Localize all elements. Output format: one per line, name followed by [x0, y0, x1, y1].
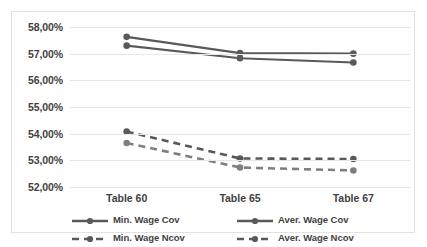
legend-label: Aver. Wage Cov — [278, 214, 348, 225]
y-axis-tick-label: 55,00% — [28, 101, 63, 113]
legend-swatch-icon — [72, 231, 108, 243]
data-point-marker — [123, 42, 130, 49]
legend-swatch-icon — [237, 213, 273, 225]
y-axis-tick-label: 58,00% — [28, 21, 63, 33]
gridline — [70, 107, 410, 108]
data-point-marker — [237, 55, 244, 62]
chart-frame: 52,00%53,00%54,00%55,00%56,00%57,00%58,0… — [11, 11, 415, 233]
gridline — [70, 80, 410, 81]
y-axis-tick-label: 52,00% — [28, 181, 63, 193]
legend-swatch-icon — [237, 231, 273, 243]
plot-area: 52,00%53,00%54,00%55,00%56,00%57,00%58,0… — [70, 27, 410, 187]
y-axis-tick-label: 56,00% — [28, 74, 63, 86]
x-axis-tick-label: Table 67 — [333, 192, 374, 204]
data-point-marker — [237, 164, 244, 171]
x-axis-tick-label: Table 60 — [106, 192, 147, 204]
legend-entry[interactable]: Min. Wage Cov — [72, 212, 237, 226]
y-axis-tick-label: 53,00% — [28, 154, 63, 166]
series-line — [127, 132, 354, 159]
data-point-marker — [350, 167, 357, 174]
legend-label: Min. Wage Cov — [113, 214, 180, 225]
legend-entry[interactable]: Min. Wage Ncov — [72, 230, 237, 244]
legend-label: Min. Wage Ncov — [113, 232, 185, 243]
gridline — [70, 27, 410, 28]
y-axis-tick-label: 57,00% — [28, 48, 63, 60]
legend-swatch-icon — [72, 213, 108, 225]
chart-legend: Min. Wage CovAver. Wage CovMin. Wage Nco… — [72, 212, 402, 244]
gridline — [70, 160, 410, 161]
x-axis-tick-labels: Table 60Table 65Table 67 — [70, 192, 410, 208]
legend-label: Aver. Wage Ncov — [278, 232, 354, 243]
data-point-marker — [123, 140, 130, 147]
data-point-marker — [123, 34, 130, 41]
gridline — [70, 134, 410, 135]
legend-entry[interactable]: Aver. Wage Ncov — [237, 230, 402, 244]
gridline — [70, 187, 410, 188]
y-axis-tick-label: 54,00% — [28, 128, 63, 140]
legend-entry[interactable]: Aver. Wage Cov — [237, 212, 402, 226]
data-point-marker — [350, 59, 357, 66]
gridline — [70, 54, 410, 55]
x-axis-tick-label: Table 65 — [219, 192, 260, 204]
